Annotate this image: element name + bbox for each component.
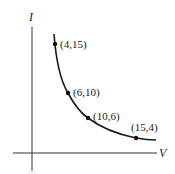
point-label-10-6: (10,6) xyxy=(93,110,120,123)
inverse-curve-chart: I V (4,15) (6,10) (10,6) (15,4) xyxy=(0,0,175,174)
data-point-10-6 xyxy=(86,116,90,120)
data-point-4-15 xyxy=(53,42,57,46)
data-point-15-4 xyxy=(134,136,138,140)
data-point-6-10 xyxy=(66,91,70,95)
point-label-4-15: (4,15) xyxy=(60,38,87,51)
point-label-6-10: (6,10) xyxy=(73,86,100,99)
point-label-15-4: (15,4) xyxy=(131,121,158,134)
x-axis-label: V xyxy=(159,146,168,160)
y-axis-label: I xyxy=(28,10,34,24)
